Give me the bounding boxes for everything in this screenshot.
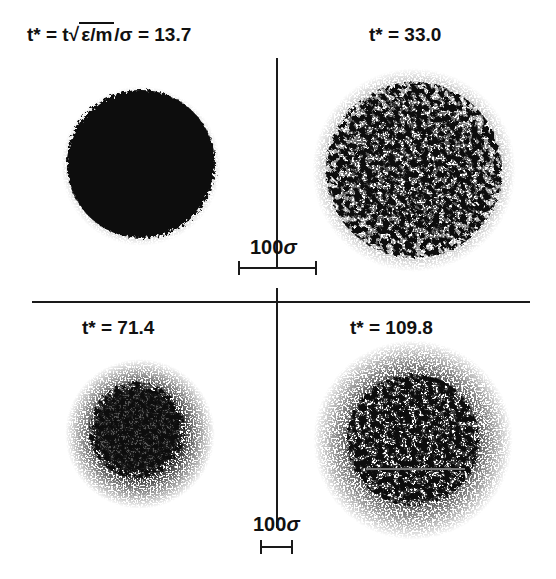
cluster-13-7	[61, 86, 221, 246]
cluster-109-8	[313, 340, 513, 540]
cluster-33-0	[312, 68, 516, 272]
cluster-panel-1	[0, 0, 556, 579]
cluster-71-4	[65, 359, 215, 509]
